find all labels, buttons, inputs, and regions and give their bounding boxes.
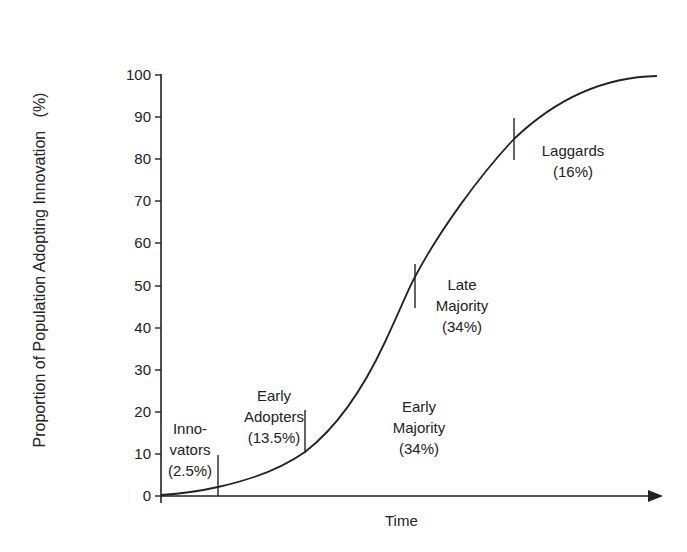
y-axis-label: Proportion of Population Adopting Innova… [31, 93, 49, 448]
y-tick-40: 40 [111, 319, 151, 336]
segment-line1: Early [381, 396, 457, 417]
segment-line2: Majority [381, 417, 457, 438]
y-tick-50: 50 [111, 277, 151, 294]
segment-line1: Inno- [164, 418, 216, 439]
y-tick-90: 90 [111, 108, 151, 125]
x-axis-arrow-icon [648, 490, 663, 502]
y-tick-60: 60 [111, 234, 151, 251]
y-axis-unit: (%) [31, 93, 48, 118]
segment-pct: (16%) [528, 161, 618, 182]
segment-pct: (13.5%) [236, 427, 312, 448]
y-tick-80: 80 [111, 150, 151, 167]
segment-pct: (2.5%) [164, 460, 216, 481]
segment-line1: Late [424, 274, 500, 295]
segment-early-majority: Early Majority (34%) [381, 396, 457, 459]
y-tick-10: 10 [111, 445, 151, 462]
segment-line2: Majority [424, 295, 500, 316]
segment-pct: (34%) [381, 438, 457, 459]
y-tick-70: 70 [111, 192, 151, 209]
segment-pct: (34%) [424, 316, 500, 337]
segment-innovators: Inno- vators (2.5%) [164, 418, 216, 481]
segment-line1: Early [236, 385, 312, 406]
y-tick-100: 100 [111, 66, 151, 83]
segment-line2: Adopters [236, 406, 312, 427]
y-tick-20: 20 [111, 403, 151, 420]
y-axis-title: Proportion of Population Adopting Innova… [31, 131, 48, 448]
chart-canvas [0, 0, 687, 552]
segment-late-majority: Late Majority (34%) [424, 274, 500, 337]
segment-laggards: Laggards (16%) [528, 140, 618, 182]
segment-line2: vators [164, 439, 216, 460]
segment-early-adopters: Early Adopters (13.5%) [236, 385, 312, 448]
segment-line1: Laggards [528, 140, 618, 161]
y-tick-30: 30 [111, 361, 151, 378]
y-tick-0: 0 [111, 487, 151, 504]
x-axis-label: Time [385, 512, 418, 529]
